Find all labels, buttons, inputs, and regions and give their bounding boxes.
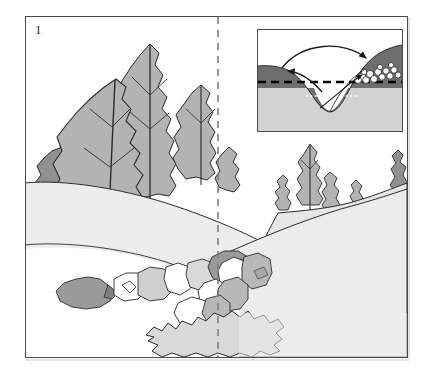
inset-cross-section-svg: [258, 30, 402, 131]
figure-frame: 1: [25, 16, 408, 358]
figure-number: 1: [35, 23, 42, 36]
inset-cross-section-panel: [257, 29, 403, 132]
paper-shadow: [26, 359, 409, 361]
paper-shadow-right: [408, 17, 410, 359]
figure-canvas: 1: [0, 0, 428, 376]
